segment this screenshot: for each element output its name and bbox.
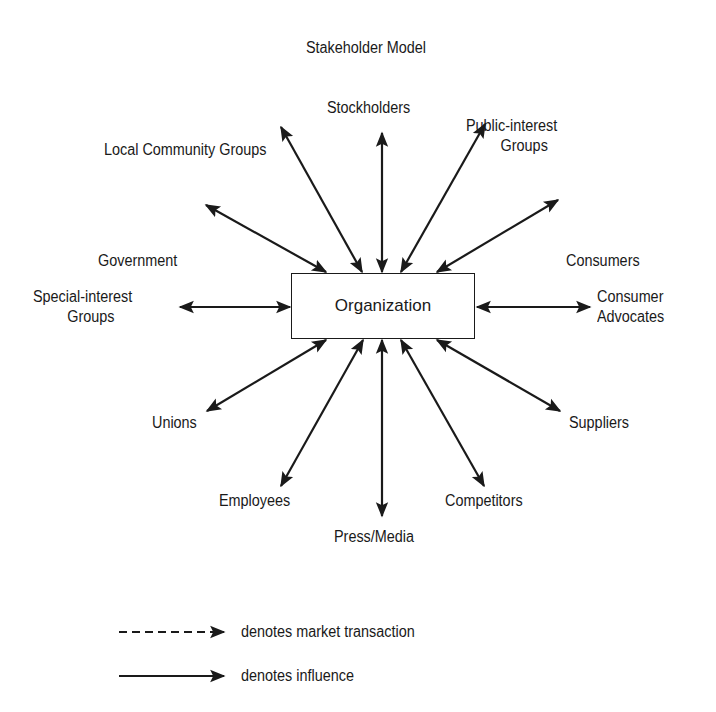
label-stockholders: Stockholders — [327, 98, 410, 118]
arrow-suppliers — [437, 340, 560, 411]
arrow-government — [206, 205, 326, 272]
label-unions: Unions — [152, 413, 197, 433]
arrow-local-community — [281, 127, 362, 272]
legend-influence: denotes influence — [241, 666, 354, 686]
label-local-community: Local Community Groups — [104, 140, 266, 160]
arrow-consumers — [437, 200, 558, 272]
arrow-employees — [281, 340, 363, 486]
label-employees: Employees — [219, 491, 290, 511]
label-special-interest: Special-interest Groups — [33, 287, 132, 327]
organization-label: Organization — [335, 296, 431, 316]
label-consumer-advocates: Consumer Advocates — [597, 287, 664, 327]
label-government: Government — [98, 251, 177, 271]
organization-box: Organization — [291, 273, 475, 339]
arrow-unions — [207, 340, 326, 411]
diagram-title: Stakeholder Model — [306, 38, 426, 58]
label-competitors: Competitors — [445, 491, 523, 511]
label-suppliers: Suppliers — [569, 413, 629, 433]
arrow-competitors — [401, 340, 484, 486]
label-press-media: Press/Media — [334, 527, 414, 547]
legend-market-transaction: denotes market transaction — [241, 622, 415, 642]
label-consumers: Consumers — [566, 251, 640, 271]
label-public-interest: Public-interest Groups — [466, 116, 557, 156]
